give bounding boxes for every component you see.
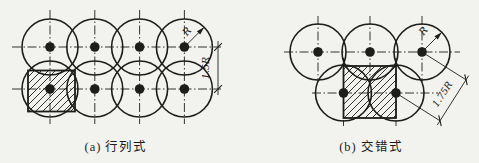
center-dot [135,84,145,94]
center-dot [135,42,145,52]
caption-panel-a: (a) 行列式 [85,136,148,155]
center-dot [90,42,100,52]
tick-mark [439,115,441,126]
dimension-label: R [416,24,430,38]
tick-mark [465,74,467,85]
center-dot [365,47,375,57]
diagram-svg: R1.5RR1.75R [0,0,479,163]
center-dot [45,42,55,52]
center-dot [339,88,349,98]
dimension-label: 1.5R [200,57,211,79]
caption-panel-b: (b) 交错式 [339,136,403,155]
figure: R1.5RR1.75R (a) 行列式 (b) 交错式 [0,0,479,163]
dimension-label: R [180,24,194,38]
center-dot [180,84,190,94]
center-dot [313,47,323,57]
center-dot [45,84,55,94]
dimension-line [422,52,466,80]
center-dot [90,84,100,94]
